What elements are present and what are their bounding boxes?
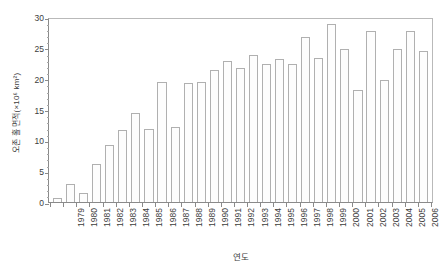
x-axis-tick [63, 203, 64, 207]
bar [157, 82, 166, 202]
bar-slot [391, 19, 404, 202]
y-axis-tick-label: 15 [35, 106, 44, 115]
y-axis-minor-tick [47, 117, 50, 118]
bar [66, 184, 75, 203]
x-axis-tick-label: 2002 [379, 208, 388, 248]
x-axis-tick-label: 2000 [352, 208, 361, 248]
x-axis-tick-label: 1990 [221, 208, 230, 248]
y-axis-minor-tick [47, 68, 50, 69]
x-axis-tick-label: 1983 [129, 208, 138, 248]
x-axis-tick-label: 2003 [392, 208, 401, 248]
x-axis-tick [103, 203, 104, 207]
bar-slot [299, 19, 312, 202]
bar [171, 127, 180, 202]
ozone-hole-area-bar-chart: 오존 홀 면적(×10⁶ km²) 051015202530 197919801… [0, 0, 444, 272]
y-axis-tick-label: 0 [39, 199, 44, 208]
x-axis-tick [286, 203, 287, 207]
bar [340, 49, 349, 202]
bar [144, 129, 153, 202]
x-axis-tick [208, 203, 209, 207]
bar [366, 31, 375, 202]
bar [419, 51, 428, 202]
x-axis-tick-label: 1982 [116, 208, 125, 248]
bar-slot [260, 19, 273, 202]
x-axis-tick-label: 1987 [182, 208, 191, 248]
y-axis-minor-tick [47, 31, 50, 32]
y-axis-minor-tick [47, 136, 50, 137]
x-axis-tick [168, 203, 169, 207]
bar-slot [417, 19, 430, 202]
y-axis-minor-tick [47, 185, 50, 186]
bar-slot [234, 19, 247, 202]
y-axis-major-tick [45, 49, 49, 50]
x-axis-tick [418, 203, 419, 207]
y-axis-minor-tick [47, 130, 50, 131]
bar-slot [365, 19, 378, 202]
y-axis-title-text: 오존 홀 면적(×10⁶ km²) [13, 73, 21, 154]
bar-slot [312, 19, 325, 202]
bar-slot [247, 19, 260, 202]
y-axis-minor-tick [47, 148, 50, 149]
bar [53, 198, 62, 202]
x-axis-title: 연도 [48, 250, 433, 262]
bar [210, 70, 219, 202]
bar-slot [77, 19, 90, 202]
x-axis-tick [195, 203, 196, 207]
bar [327, 24, 336, 202]
x-axis-tick [129, 203, 130, 207]
plot-area [48, 18, 433, 203]
x-axis-tick-label: 1984 [142, 208, 151, 248]
bar-slot [195, 19, 208, 202]
x-axis-tick [365, 203, 366, 207]
bar-slot [90, 19, 103, 202]
x-axis-tick [273, 203, 274, 207]
x-axis-tick [313, 203, 314, 207]
y-axis-minor-tick [47, 167, 50, 168]
y-axis-minor-tick [47, 25, 50, 26]
x-axis-tick-label: 1980 [90, 208, 99, 248]
bar-slot [378, 19, 391, 202]
bar [197, 82, 206, 202]
x-axis-tick-label: 1991 [234, 208, 243, 248]
bar-slot [64, 19, 77, 202]
bar-slot [273, 19, 286, 202]
y-axis-minor-tick [47, 197, 50, 198]
y-axis-tick-label: 5 [39, 168, 44, 177]
y-axis-minor-tick [47, 43, 50, 44]
y-axis-tick-label: 25 [35, 45, 44, 54]
y-axis-tick-label: 30 [35, 14, 44, 23]
y-axis-minor-tick [47, 191, 50, 192]
y-axis-minor-tick [47, 86, 50, 87]
y-axis-minor-tick [47, 105, 50, 106]
bar [380, 80, 389, 202]
x-axis-tick [326, 203, 327, 207]
y-axis-minor-tick [47, 93, 50, 94]
bar [236, 68, 245, 202]
y-axis-major-tick [45, 173, 49, 174]
y-axis-minor-tick [47, 62, 50, 63]
y-axis-minor-tick [47, 74, 50, 75]
x-axis-tick [352, 203, 353, 207]
bar-slot [221, 19, 234, 202]
x-axis-tick-label: 1997 [313, 208, 322, 248]
x-axis-tick [247, 203, 248, 207]
x-axis-tick-labels: 1979198019811982198319841985198619871988… [48, 208, 433, 248]
bar [92, 164, 101, 202]
bar-slot [129, 19, 142, 202]
bar-slot [338, 19, 351, 202]
y-axis-tick-labels: 051015202530 [22, 18, 44, 203]
x-axis-tick [392, 203, 393, 207]
bar [406, 31, 415, 202]
bar-slot [325, 19, 338, 202]
x-axis-tick-label: 1979 [77, 208, 86, 248]
x-axis-tick [76, 203, 77, 207]
x-axis-tick-label: 2005 [418, 208, 427, 248]
x-axis-tick-label: 1994 [274, 208, 283, 248]
bar-slot [404, 19, 417, 202]
bar [275, 59, 284, 202]
x-axis-tick-label: 1992 [247, 208, 256, 248]
bar-slot [156, 19, 169, 202]
x-axis-tick-label: 1989 [208, 208, 217, 248]
x-axis-tick-label: 1995 [287, 208, 296, 248]
x-axis-tick-label: 1981 [103, 208, 112, 248]
